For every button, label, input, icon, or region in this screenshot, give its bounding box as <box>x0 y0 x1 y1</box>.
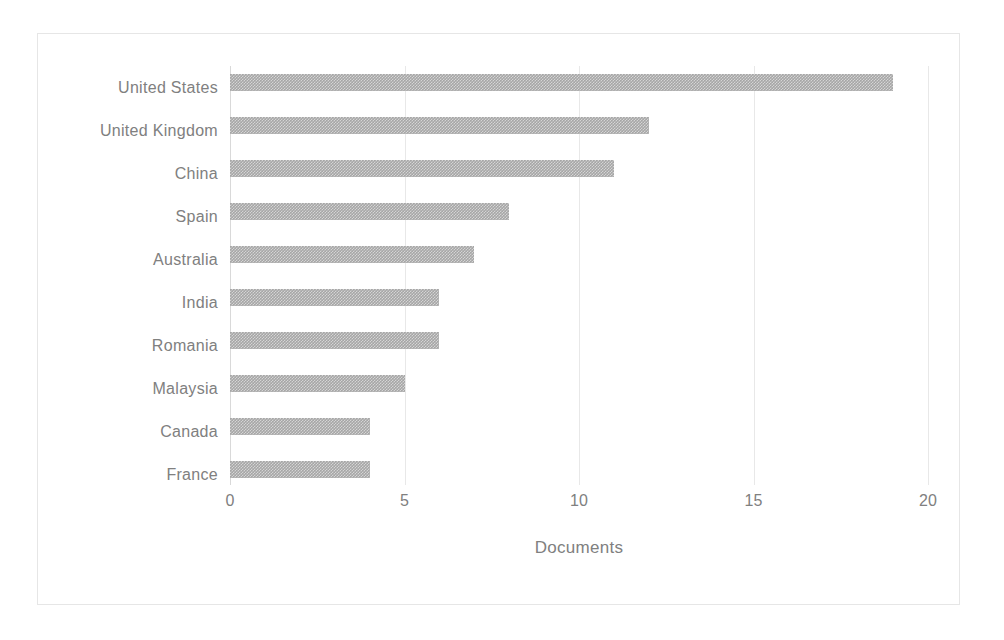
y-axis-label: Spain <box>37 195 218 238</box>
x-tick-label: 20 <box>898 492 958 510</box>
bar-row <box>230 367 928 410</box>
bar[interactable] <box>230 289 439 306</box>
bar[interactable] <box>230 461 370 478</box>
y-axis-category-labels: United StatesUnited KingdomChinaSpainAus… <box>37 66 218 485</box>
bar-row <box>230 324 928 367</box>
bar-row <box>230 152 928 195</box>
x-tick-label: 10 <box>549 492 609 510</box>
y-axis-label: United Kingdom <box>37 109 218 152</box>
y-axis-label: Canada <box>37 410 218 453</box>
y-axis-label: Australia <box>37 238 218 281</box>
bar[interactable] <box>230 375 405 392</box>
y-axis-label: China <box>37 152 218 195</box>
y-axis-label: Romania <box>37 324 218 367</box>
bar[interactable] <box>230 203 509 220</box>
bar-row <box>230 109 928 152</box>
x-tick-label: 15 <box>724 492 784 510</box>
chart-figure: United StatesUnited KingdomChinaSpainAus… <box>0 0 1004 640</box>
x-tick-label: 0 <box>200 492 260 510</box>
y-axis-label: United States <box>37 66 218 109</box>
x-axis-tick-labels: 05101520 <box>230 492 928 518</box>
y-axis-label: Malaysia <box>37 367 218 410</box>
bar[interactable] <box>230 74 893 91</box>
bar-row <box>230 195 928 238</box>
bar[interactable] <box>230 160 614 177</box>
plot-area <box>230 66 928 485</box>
y-axis-label: France <box>37 453 218 496</box>
bar-row <box>230 66 928 109</box>
bar[interactable] <box>230 418 370 435</box>
bar-row <box>230 453 928 496</box>
x-axis-title: Documents <box>230 538 928 558</box>
bar[interactable] <box>230 246 474 263</box>
bar[interactable] <box>230 332 439 349</box>
y-axis-label: India <box>37 281 218 324</box>
bar-row <box>230 238 928 281</box>
bar-row <box>230 281 928 324</box>
bar[interactable] <box>230 117 649 134</box>
x-tick-label: 5 <box>375 492 435 510</box>
gridline-20 <box>928 66 929 485</box>
bar-row <box>230 410 928 453</box>
